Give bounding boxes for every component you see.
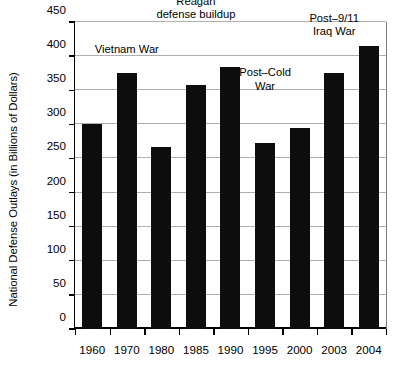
bar-2000[interactable]: [290, 128, 310, 329]
x-tick-mark: [386, 329, 387, 335]
x-axis-tick-label-2004: 2004: [356, 343, 382, 356]
annotation-line: Post–9/11: [309, 12, 359, 26]
x-axis-tick-label-1985: 1985: [183, 343, 209, 356]
annotation-line: Iraq War: [309, 25, 359, 39]
bar-1970[interactable]: [117, 73, 137, 330]
annotation-line: defense buildup: [156, 8, 235, 22]
y-axis-tick-label: 0: [60, 310, 66, 323]
bar-1995[interactable]: [255, 143, 275, 329]
annotation-post-911-iraq-war: Post–9/11Iraq War: [309, 12, 359, 39]
bar-slot-1980: [144, 22, 179, 329]
bar-1980[interactable]: [151, 147, 171, 329]
x-tick-mark: [110, 329, 111, 335]
bar-2003[interactable]: [324, 73, 344, 329]
annotation-vietnam-war: Vietnam War: [95, 43, 159, 57]
x-axis-tick-label-2003: 2003: [321, 343, 347, 356]
bar-2004[interactable]: [359, 46, 379, 329]
bar-slot-1960: [75, 22, 110, 329]
annotation-line: Post–Cold: [239, 66, 291, 80]
bar-slot-2003: [317, 22, 352, 329]
bar-1960[interactable]: [82, 124, 102, 329]
x-tick-mark: [75, 329, 76, 335]
y-axis-tick-label: 100: [47, 241, 66, 254]
annotation-post-cold-war: Post–ColdWar: [239, 66, 291, 93]
x-tick-mark: [351, 329, 352, 335]
y-axis-tick-label: 250: [47, 139, 66, 152]
x-axis-tick-label-1980: 1980: [148, 343, 174, 356]
bar-1990[interactable]: [220, 67, 240, 329]
x-tick-mark: [282, 329, 283, 335]
annotation-line: Reagan: [156, 0, 235, 8]
plot-area: 050100150200250300350400450 196019701980…: [74, 22, 387, 329]
annotation-line: Vietnam War: [95, 43, 159, 57]
x-tick-mark: [248, 329, 249, 335]
defense-outlays-bar-chart: National Defense Outlays (in Billions of…: [0, 0, 407, 379]
x-tick-mark: [213, 329, 214, 335]
x-axis-tick-label-1990: 1990: [218, 343, 244, 356]
y-axis-tick-label: 150: [47, 207, 66, 220]
x-tick-mark: [144, 329, 145, 335]
bars-group: 196019701980198519901995200020032004: [75, 22, 386, 329]
x-tick-mark: [317, 329, 318, 335]
bar-slot-1985: [179, 22, 214, 329]
x-axis-tick-label-1970: 1970: [114, 343, 140, 356]
bar-slot-2004: [351, 22, 386, 329]
x-tick-mark: [179, 329, 180, 335]
y-axis-tick-label: 350: [47, 71, 66, 84]
y-axis-tick-label: 400: [47, 37, 66, 50]
y-axis-tick-label: 300: [47, 105, 66, 118]
y-axis-tick-label: 50: [53, 275, 66, 288]
x-axis-tick-label-1960: 1960: [79, 343, 105, 356]
x-axis-tick-label-1995: 1995: [252, 343, 278, 356]
y-axis-tick-label: 450: [47, 3, 66, 16]
annotation-reagan-defense-buildup: Reagandefense buildup: [156, 0, 235, 22]
x-axis-tick-label-2000: 2000: [287, 343, 313, 356]
y-axis-title: National Defense Outlays (in Billions of…: [0, 0, 26, 379]
bar-1985[interactable]: [186, 85, 206, 329]
annotation-line: War: [239, 80, 291, 94]
bar-slot-1970: [110, 22, 145, 329]
y-axis-tick-label: 200: [47, 173, 66, 186]
